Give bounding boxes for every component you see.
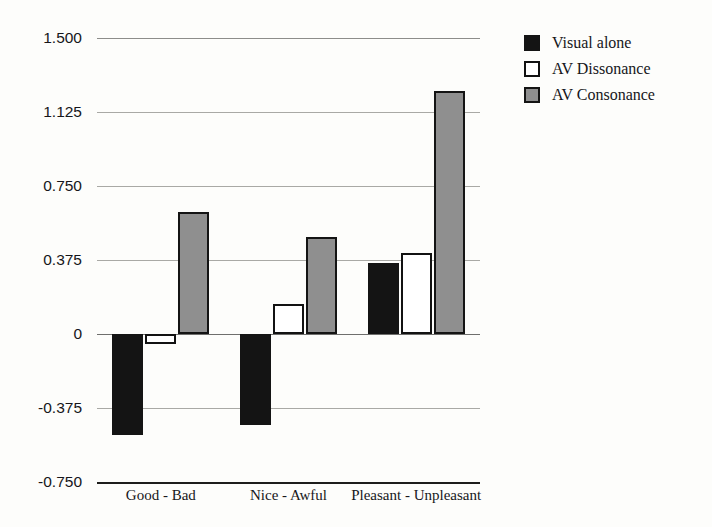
- category-label: Good - Bad: [126, 487, 196, 504]
- category-label: Pleasant - Unpleasant: [351, 487, 481, 504]
- bar-av-dissonance-0: [145, 334, 176, 344]
- legend-label: Visual alone: [552, 34, 631, 52]
- y-axis-tick-labels: 1.5001.1250.7500.3750-0.375-0.750: [0, 38, 88, 482]
- legend-item: AV Consonance: [524, 82, 704, 108]
- gridline-0.75: [97, 186, 480, 187]
- bar-av-consonance-0: [178, 212, 209, 334]
- white-square-icon: [524, 61, 540, 77]
- bar-visual-alone-2: [368, 263, 399, 334]
- plot-area: [97, 38, 480, 482]
- chart-figure: 1.5001.1250.7500.3750-0.375-0.750 Good -…: [0, 0, 712, 527]
- gray-square-icon: [524, 87, 540, 103]
- y-tick-label: 0: [73, 325, 82, 343]
- legend-label: AV Consonance: [552, 86, 655, 104]
- y-tick-label: -0.375: [38, 399, 82, 417]
- y-tick-label: -0.750: [38, 473, 82, 491]
- black-square-icon: [524, 35, 540, 51]
- bar-av-dissonance-1: [273, 304, 304, 334]
- y-tick-label: 1.125: [43, 103, 82, 121]
- bar-av-dissonance-2: [401, 253, 432, 334]
- y-tick-label: 0.375: [43, 251, 82, 269]
- gridline-1.5: [97, 38, 480, 39]
- x-axis-category-labels: Good - BadNice - AwfulPleasant - Unpleas…: [97, 487, 480, 511]
- legend-item: Visual alone: [524, 30, 704, 56]
- bar-av-consonance-2: [434, 91, 465, 334]
- gridline-1.125: [97, 112, 480, 113]
- bar-visual-alone-1: [240, 334, 271, 425]
- bar-av-consonance-1: [306, 237, 337, 334]
- legend: Visual aloneAV DissonanceAV Consonance: [524, 30, 704, 108]
- gridline--0.75: [97, 482, 480, 484]
- legend-item: AV Dissonance: [524, 56, 704, 82]
- legend-label: AV Dissonance: [552, 60, 651, 78]
- gridline--0.375: [97, 408, 480, 409]
- y-tick-label: 1.500: [43, 29, 82, 47]
- bar-visual-alone-0: [112, 334, 143, 435]
- y-tick-label: 0.750: [43, 177, 82, 195]
- category-label: Nice - Awful: [250, 487, 327, 504]
